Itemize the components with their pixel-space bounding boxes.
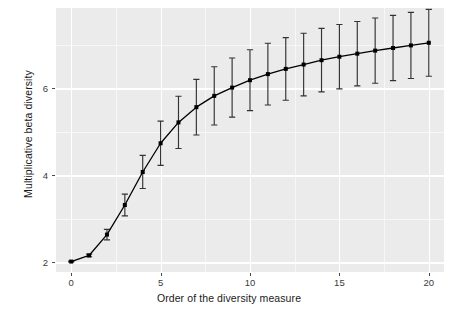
x-tick-mark (161, 273, 162, 276)
x-axis-title: Order of the diversity measure (0, 292, 458, 304)
x-tick-mark (339, 273, 340, 276)
data-point-marker (391, 46, 395, 50)
y-tick-label: 4 (34, 170, 48, 181)
data-point-marker (230, 86, 234, 90)
x-tick-label: 10 (245, 277, 256, 288)
data-point-marker (427, 41, 431, 45)
plot-panel (56, 8, 444, 272)
x-tick-mark (71, 273, 72, 276)
x-tick-label: 15 (334, 277, 345, 288)
data-point-marker (409, 43, 413, 47)
data-point-marker (123, 203, 127, 207)
errorbar-group (68, 9, 432, 262)
x-tick-label: 0 (69, 277, 74, 288)
x-tick-mark (250, 273, 251, 276)
data-point-marker (248, 78, 252, 82)
chart-figure: 05101520 246 Order of the diversity meas… (0, 0, 458, 315)
data-point-marker (266, 72, 270, 76)
data-point-marker (87, 253, 91, 257)
plot-series-layer (56, 8, 444, 272)
data-point-marker (141, 170, 145, 174)
y-tick-label: 2 (34, 257, 48, 268)
data-point-marker (337, 55, 341, 59)
data-point-marker (105, 233, 109, 237)
data-point-marker (355, 52, 359, 56)
data-point-marker (373, 49, 377, 53)
data-point-marker (159, 141, 163, 145)
data-point-marker (176, 120, 180, 124)
data-point-marker (194, 105, 198, 109)
data-point-marker (284, 67, 288, 71)
y-axis-title: Multiplicative beta diversity (22, 14, 34, 254)
y-tick-mark (52, 175, 55, 176)
data-point-marker (212, 94, 216, 98)
y-tick-label: 6 (34, 83, 48, 94)
x-tick-mark (429, 273, 430, 276)
x-tick-label: 20 (424, 277, 435, 288)
data-point-marker (320, 58, 324, 62)
data-point-marker (69, 260, 73, 264)
y-tick-mark (52, 262, 55, 263)
y-tick-mark (52, 88, 55, 89)
data-point-marker (302, 63, 306, 67)
x-tick-label: 5 (158, 277, 163, 288)
